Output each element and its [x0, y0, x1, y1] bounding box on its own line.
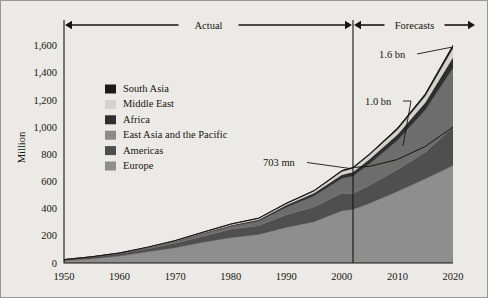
forecast-arrowhead-right [468, 21, 475, 29]
legend-swatch [105, 146, 116, 155]
legend-swatch [105, 131, 116, 140]
period-label-actual: Actual [194, 20, 222, 31]
legend-swatch [105, 85, 116, 94]
y-tick-label: 800 [41, 149, 57, 160]
annotation-16bn-leader [417, 47, 451, 54]
x-tick-label: 2020 [443, 271, 464, 282]
x-tick-label: 1960 [109, 271, 130, 282]
chart-figure: 02004006008001,0001,2001,4001,600Million… [0, 0, 488, 298]
x-tick-label: 1980 [220, 271, 241, 282]
y-tick-label: 1,000 [33, 122, 57, 133]
legend-swatch [105, 100, 116, 109]
x-tick-label: 2000 [331, 271, 352, 282]
legend-swatch [105, 115, 116, 124]
forecast-arrowhead-left [354, 21, 361, 29]
annotation-10bn: 1.0 bn [365, 96, 392, 107]
legend-label: South Asia [123, 83, 169, 94]
x-tick-label: 1950 [54, 271, 75, 282]
y-tick-label: 600 [41, 176, 57, 187]
legend-label: Europe [123, 160, 154, 171]
y-tick-label: 1,200 [33, 95, 57, 106]
annotation-703mn: 703 mn [263, 157, 296, 168]
chart-canvas: 02004006008001,0001,2001,4001,600Million… [1, 1, 488, 298]
annotation-16bn: 1.6 bn [379, 49, 406, 60]
x-tick-label: 1990 [276, 271, 297, 282]
x-tick-label: 2010 [387, 271, 408, 282]
actual-arrowhead-right [345, 21, 352, 29]
x-tick-label: 1970 [165, 271, 186, 282]
legend-swatch [105, 162, 116, 171]
legend-label: East Asia and the Pacific [123, 129, 228, 140]
legend-label: Africa [123, 114, 150, 125]
y-tick-label: 400 [41, 203, 57, 214]
y-tick-label: 1,400 [33, 67, 57, 78]
y-axis-title: Million [16, 131, 27, 163]
y-tick-label: 200 [41, 230, 57, 241]
period-label-forecasts: Forecasts [395, 20, 435, 31]
legend-label: Americas [123, 145, 163, 156]
actual-arrowhead-left [65, 21, 72, 29]
legend-label: Middle East [123, 98, 174, 109]
annotation-703mn-leader [307, 163, 350, 169]
y-tick-label: 0 [52, 258, 57, 269]
y-tick-label: 1,600 [33, 40, 57, 51]
